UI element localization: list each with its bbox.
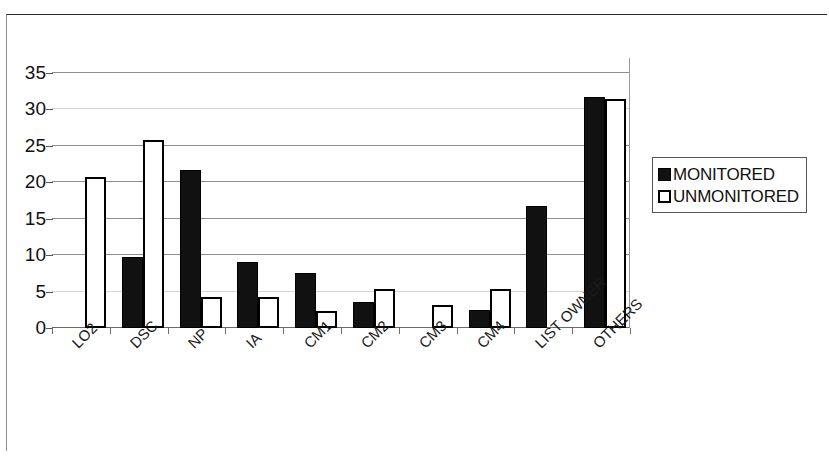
gridline-30 (52, 108, 629, 109)
legend-item-monitored: MONITORED (658, 163, 799, 185)
x-tick-mark-6 (399, 328, 400, 334)
x-tick-mark-8 (514, 328, 515, 334)
bar-others-unmonitored (605, 99, 626, 328)
x-tick-mark-0 (52, 328, 53, 334)
y-tick-label-0: 0 (6, 318, 46, 337)
y-tick-label-5: 5 (6, 282, 46, 301)
y-tick-label-30: 30 (6, 99, 46, 118)
bar-cm1-monitored (295, 273, 316, 328)
x-tick-mark-1 (110, 328, 111, 334)
bar-np-unmonitored (201, 297, 222, 328)
bar-list-owner-monitored (526, 206, 547, 328)
x-tick-label-np: NP (185, 325, 210, 350)
bar-np-monitored (180, 170, 201, 328)
bar-lo2-unmonitored (85, 177, 106, 328)
y-tick-label-10: 10 (6, 245, 46, 264)
x-tick-mark-9 (572, 328, 573, 334)
gridline-25 (52, 145, 629, 146)
bar-ia-monitored (237, 262, 258, 328)
y-tick-label-20: 20 (6, 172, 46, 191)
gridline-35 (52, 72, 629, 73)
legend-label-monitored: MONITORED (673, 166, 775, 183)
x-tick-mark-end (630, 328, 631, 334)
x-tick-mark-2 (168, 328, 169, 334)
legend-label-unmonitored: UNMONITORED (673, 188, 799, 205)
hollow-square-icon (658, 190, 671, 203)
filled-square-icon (658, 168, 671, 181)
bar-dsc-monitored (122, 257, 143, 328)
bar-dsc-unmonitored (143, 140, 164, 328)
bar-ia-unmonitored (258, 297, 279, 328)
legend-item-unmonitored: UNMONITORED (658, 185, 799, 207)
x-tick-mark-7 (457, 328, 458, 334)
x-tick-mark-4 (283, 328, 284, 334)
x-tick-label-ia: IA (243, 330, 264, 351)
x-tick-mark-5 (341, 328, 342, 334)
gridline-20 (52, 181, 629, 182)
plot-area (52, 58, 630, 328)
x-tick-mark-3 (225, 328, 226, 334)
chart-legend: MONITORED UNMONITORED (652, 157, 807, 213)
bar-chart: 05101520253035 LO2DSCNPIACM1CM2CM3CM4LIS… (0, 0, 829, 457)
y-tick-label-35: 35 (6, 63, 46, 82)
y-tick-label-25: 25 (6, 136, 46, 155)
y-tick-label-15: 15 (6, 209, 46, 228)
